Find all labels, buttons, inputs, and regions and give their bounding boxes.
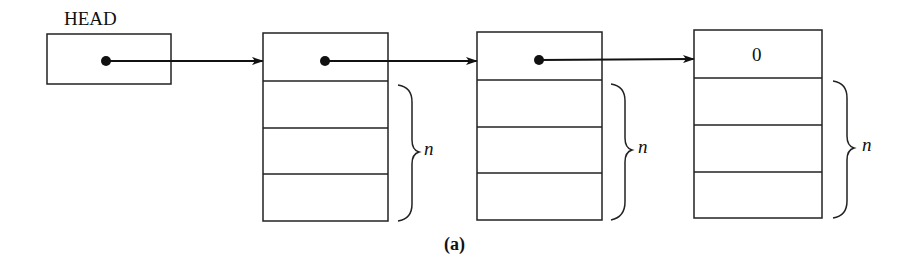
head-label: HEAD xyxy=(64,8,117,30)
node-2-brace xyxy=(611,84,632,220)
node-2-arrow xyxy=(539,59,694,60)
node-2-size-label: n xyxy=(638,136,648,158)
figure-caption: (a) xyxy=(444,234,465,255)
node-1-brace xyxy=(398,85,419,221)
node-3-link-value: 0 xyxy=(752,44,762,66)
node-3-brace xyxy=(833,81,854,218)
node-2 xyxy=(477,32,694,220)
node-3-size-label: n xyxy=(862,134,872,156)
node-3 xyxy=(694,30,854,218)
node-1 xyxy=(263,33,477,221)
node-1-size-label: n xyxy=(424,138,434,160)
